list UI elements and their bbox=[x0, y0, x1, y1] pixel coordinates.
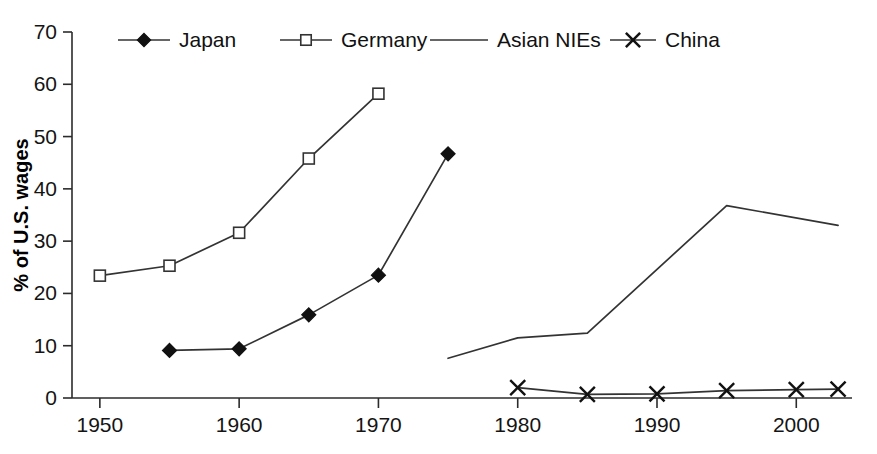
series-layer bbox=[94, 88, 845, 402]
series-japan bbox=[163, 147, 456, 358]
chart-legend: JapanGermanyAsian NIEsChina bbox=[118, 28, 720, 51]
legend-label: Germany bbox=[341, 28, 428, 51]
y-axis-tick-label: 50 bbox=[34, 125, 57, 148]
data-point-marker bbox=[137, 33, 150, 46]
data-point-marker bbox=[163, 343, 177, 357]
data-point-marker bbox=[302, 308, 316, 322]
data-point-marker bbox=[234, 227, 245, 238]
x-axis: 195019601970198019902000 bbox=[72, 398, 852, 436]
x-axis-tick-label: 2000 bbox=[773, 413, 820, 436]
y-axis-tick-label: 0 bbox=[45, 386, 57, 409]
series-line bbox=[518, 388, 838, 395]
x-axis-tick-label: 1960 bbox=[216, 413, 263, 436]
data-point-marker bbox=[303, 153, 314, 164]
legend-item-china[interactable]: China bbox=[610, 28, 720, 51]
x-axis-tick-label: 1970 bbox=[355, 413, 402, 436]
y-axis-tick-label: 40 bbox=[34, 177, 57, 200]
x-axis-tick-label: 1990 bbox=[634, 413, 681, 436]
data-point-marker bbox=[301, 35, 311, 45]
data-point-marker bbox=[373, 88, 384, 99]
legend-item-japan[interactable]: Japan bbox=[118, 28, 236, 51]
series-asian-nies bbox=[448, 206, 838, 359]
data-point-marker bbox=[371, 268, 385, 282]
chart-container: % of U.S. wages 010203040506070 19501960… bbox=[0, 0, 877, 454]
y-axis-tick-label: 30 bbox=[34, 229, 57, 252]
data-point-marker bbox=[441, 147, 455, 161]
series-line bbox=[448, 206, 838, 359]
y-axis-tick-label: 10 bbox=[34, 334, 57, 357]
y-axis-tick-label: 20 bbox=[34, 281, 57, 304]
y-axis-title-group: % of U.S. wages bbox=[10, 138, 32, 291]
x-axis-tick-label: 1980 bbox=[494, 413, 541, 436]
y-axis-title: % of U.S. wages bbox=[10, 138, 32, 291]
legend-item-germany[interactable]: Germany bbox=[280, 28, 428, 51]
data-point-marker bbox=[164, 260, 175, 271]
y-axis: 010203040506070 bbox=[34, 20, 72, 409]
y-axis-tick-label: 70 bbox=[34, 20, 57, 43]
legend-label: Asian NIEs bbox=[497, 28, 601, 51]
series-line bbox=[100, 94, 379, 276]
line-chart: % of U.S. wages 010203040506070 19501960… bbox=[0, 0, 877, 454]
x-axis-tick-label: 1950 bbox=[76, 413, 123, 436]
legend-label: Japan bbox=[179, 28, 236, 51]
legend-label: China bbox=[665, 28, 720, 51]
data-point-marker bbox=[232, 342, 246, 356]
y-axis-tick-label: 60 bbox=[34, 72, 57, 95]
data-point-marker bbox=[94, 270, 105, 281]
series-germany bbox=[94, 88, 384, 281]
legend-item-asian-nies[interactable]: Asian NIEs bbox=[430, 28, 601, 51]
